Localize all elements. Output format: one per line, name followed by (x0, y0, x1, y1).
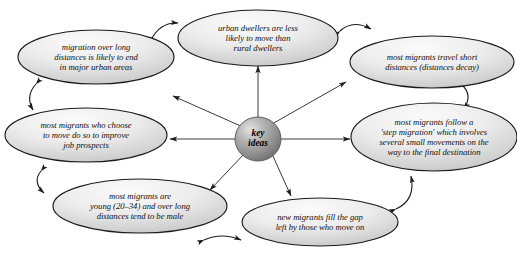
node-line: new migrants fill the gap (242, 212, 398, 222)
connector-jobprospects-to-youngmale (37, 171, 44, 193)
node-line: migration over long (18, 42, 174, 52)
node-line: likely to move than (178, 33, 338, 43)
node-label-urban-dwellers: urban dwellers are less likely to move t… (178, 23, 338, 53)
connector-urban-to-longdistance (151, 23, 178, 40)
node-line: to move do so to improve (6, 130, 166, 140)
node-label-fill-the-gap: new migrants fill the gap left by those … (242, 212, 398, 232)
mind-map-diagram: urban dwellers are less likely to move t… (0, 0, 517, 260)
node-label-long-distance-urban: migration over long distances is likely … (18, 42, 174, 72)
node-line: 'step migration' which involves (351, 127, 517, 137)
node-line: rural dwellers (178, 43, 338, 53)
connector-fillthegap-to-stepmigration (396, 176, 412, 209)
spoke-to-young-male (210, 153, 245, 190)
node-line: most migrants are (54, 191, 226, 201)
spoke-to-long-distance-urban (173, 96, 243, 127)
node-line: several small movements on the (351, 137, 517, 147)
spoke-to-short-distances (272, 82, 346, 124)
node-line: most migrants who choose (6, 120, 166, 130)
node-line: most migrants travel short (350, 52, 514, 62)
node-line: most migrants follow a (351, 117, 517, 127)
center-line: ideas (228, 138, 288, 148)
node-line: young (20–34) and over long (54, 201, 226, 211)
connector-longdistance-to-jobprospects (30, 84, 36, 110)
node-line: distances tend to be male (54, 211, 226, 221)
center-line: key (228, 128, 288, 138)
center-node-label: key ideas (228, 128, 288, 149)
node-label-job-prospects: most migrants who choose to move do so t… (6, 120, 166, 150)
node-line: distances (distances decay) (350, 62, 514, 72)
node-line: way to the final destination (351, 147, 517, 157)
node-line: distances is likely to end (18, 52, 174, 62)
connector-urban-to-shortdistances (340, 24, 371, 31)
connector-youngmale-to-fillthegap (204, 236, 241, 240)
node-line: urban dwellers are less (178, 23, 338, 33)
spoke-to-fill-the-gap (272, 154, 291, 196)
node-label-young-male: most migrants are young (20–34) and over… (54, 191, 226, 221)
node-line: job prospects (6, 140, 166, 150)
node-line: left by those who move on (242, 222, 398, 232)
node-line: in major urban areas (18, 62, 174, 72)
node-label-short-distances: most migrants travel short distances (di… (350, 52, 514, 72)
node-label-step-migration: most migrants follow a 'step migration' … (351, 117, 517, 157)
